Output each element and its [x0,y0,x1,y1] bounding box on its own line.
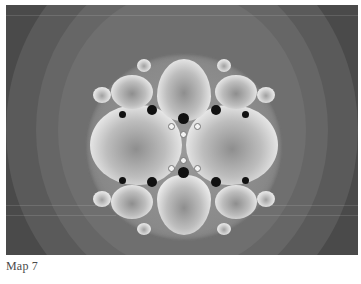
dark-dot [119,111,126,118]
dark-dot [211,177,221,187]
dark-dot [178,167,189,178]
lobe-top [157,59,211,121]
figure-caption: Map 7 [6,259,38,274]
dark-dot [119,177,126,184]
fractal-disk [85,53,283,241]
lobe-lower-left [111,185,153,219]
small-lobe [137,59,151,72]
dark-dot [178,113,189,124]
dark-dot [211,105,221,115]
white-dot [194,123,201,130]
white-dot [168,165,175,172]
lobe-bottom [157,175,211,235]
fractal-image [6,5,358,255]
white-dot [180,131,187,138]
dark-dot [147,177,157,187]
dark-dot [242,177,249,184]
small-lobe [217,223,231,235]
dark-dot [242,111,249,118]
white-dot [180,157,187,164]
scanline [6,15,358,16]
small-lobe [93,87,111,103]
small-lobe [93,191,111,207]
lobe-upper-left [111,75,153,109]
lobe-lower-right [215,185,257,219]
small-lobe [217,59,231,72]
lobe-upper-right [215,75,257,109]
white-dot [168,123,175,130]
small-lobe [137,223,151,235]
small-lobe [257,87,275,103]
dark-dot [147,105,157,115]
white-dot [194,165,201,172]
small-lobe [257,191,275,207]
